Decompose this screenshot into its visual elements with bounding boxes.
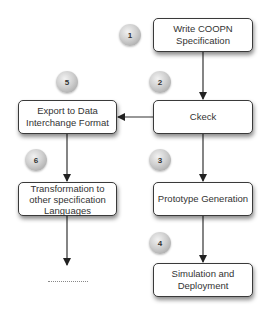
step-badge-1: 1 <box>119 24 141 46</box>
node-simulation-deployment: Simulation and Deployment <box>153 263 253 297</box>
step-badge-5: 5 <box>56 71 78 93</box>
step-badge-3: 3 <box>149 149 171 171</box>
continuation-dots <box>48 281 88 282</box>
node-check: Ckeck <box>153 100 253 134</box>
node-write-coopn-specification: Write COOPN Specification <box>153 18 253 52</box>
step-badge-2: 2 <box>149 71 171 93</box>
node-export-data-interchange: Export to Data Interchange Format <box>18 100 117 134</box>
node-transformation: Transformation to other specification La… <box>18 182 117 216</box>
node-prototype-generation: Prototype Generation <box>153 182 253 216</box>
step-badge-6: 6 <box>25 149 47 171</box>
step-badge-4: 4 <box>149 232 171 254</box>
